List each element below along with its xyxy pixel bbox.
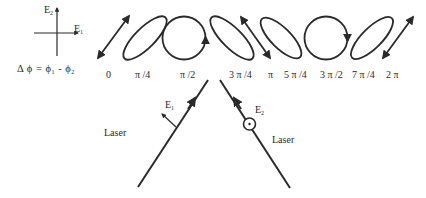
phase-label-3pi2: 3 π /2	[320, 70, 343, 80]
e2-out-of-plane-icon	[244, 118, 256, 130]
e1-beam-label: E1	[165, 100, 174, 111]
e1-field-arrow-icon	[162, 114, 176, 127]
right-laser-label: Laser	[272, 135, 294, 145]
elliptical-polarization-5pi4-icon	[255, 12, 307, 64]
phase-label-pi: π	[268, 70, 273, 80]
phase-label-0: 0	[106, 70, 111, 80]
phase-difference-formula: Δ ϕ = ϕ1 - ϕ2	[17, 64, 75, 75]
polarization-diagram: E2 E1 Δ ϕ = ϕ1 - ϕ2 0 π /4 π /2 3 π /4 π…	[0, 0, 426, 198]
phase-label-3pi4: 3 π /4	[229, 70, 252, 80]
phase-label-pi2: π /2	[180, 70, 195, 80]
elliptical-polarization-pi4-icon	[117, 10, 172, 65]
phase-label-pi4: π /4	[135, 70, 150, 80]
left-laser-label: Laser	[104, 128, 126, 138]
phase-label-5pi4: 5 π /4	[284, 70, 307, 80]
circular-polarization-3pi2-icon	[305, 17, 348, 60]
e1-axis-label: E1	[74, 24, 83, 35]
linear-polarization-2pi-icon	[383, 17, 413, 58]
diagram-graphics	[0, 0, 426, 198]
left-laser-beam-icon	[138, 80, 208, 187]
elliptical-polarization-7pi4-icon	[345, 11, 399, 65]
elliptical-polarization-3pi4-icon	[204, 10, 259, 65]
e2-axis-label: E2	[44, 5, 53, 16]
axes-icon	[34, 8, 78, 56]
phase-label-2pi: 2 π	[386, 70, 399, 80]
phase-label-7pi4: 7 π /4	[352, 70, 375, 80]
circular-polarization-pi2-icon	[163, 17, 206, 60]
e2-beam-label: E2	[255, 105, 264, 116]
